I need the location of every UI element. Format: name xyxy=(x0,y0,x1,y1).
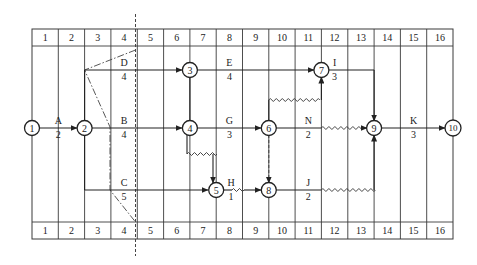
node-6: 6 xyxy=(261,121,276,136)
node-1: 1 xyxy=(25,121,40,136)
time-label: 10 xyxy=(277,32,287,43)
time-label: 9 xyxy=(253,32,258,43)
time-scale-top: 1 2 3 4 5 6 7 8 9 10 11 12 13 14 15 16 xyxy=(43,32,445,43)
time-label: 10 xyxy=(277,225,287,236)
node-label: 5 xyxy=(214,185,219,196)
time-label: 15 xyxy=(409,32,419,43)
time-label: 6 xyxy=(174,225,179,236)
time-label: 3 xyxy=(95,225,100,236)
time-label: 9 xyxy=(253,225,258,236)
time-label: 6 xyxy=(174,32,179,43)
time-label: 16 xyxy=(435,225,445,236)
activity-duration-e: 4 xyxy=(227,71,232,82)
free-float-wavy-j xyxy=(321,189,375,192)
node-5: 5 xyxy=(209,183,224,198)
activity-duration-b: 4 xyxy=(122,129,127,140)
time-label: 16 xyxy=(435,32,445,43)
activity-name-a: A xyxy=(55,115,63,126)
activity-duration-h: 1 xyxy=(229,191,234,202)
time-label: 7 xyxy=(201,32,206,43)
node-label: 2 xyxy=(82,123,87,134)
node-3: 3 xyxy=(182,63,197,78)
activity-labels: A 2 D 4 B 4 C 5 E 4 G 3 H 1 I 3 N 2 J 2 … xyxy=(55,57,418,202)
activity-duration-n: 2 xyxy=(306,129,311,140)
time-label: 12 xyxy=(330,225,340,236)
activity-name-d: D xyxy=(120,57,127,68)
time-label: 7 xyxy=(201,225,206,236)
activity-name-b: B xyxy=(121,115,128,126)
time-label: 13 xyxy=(356,32,366,43)
node-9: 9 xyxy=(367,121,382,136)
node-8: 8 xyxy=(261,183,276,198)
time-label: 3 xyxy=(95,32,100,43)
time-label: 14 xyxy=(382,225,392,236)
activity-name-c: C xyxy=(121,177,128,188)
activity-name-g: G xyxy=(226,115,233,126)
time-label: 2 xyxy=(69,225,74,236)
node-label: 3 xyxy=(187,65,192,76)
time-label: 14 xyxy=(382,32,392,43)
node-label: 6 xyxy=(266,123,271,134)
node-4: 4 xyxy=(182,121,197,136)
time-label: 4 xyxy=(122,225,127,236)
time-label: 8 xyxy=(227,32,232,43)
activity-name-k: K xyxy=(410,115,418,126)
activity-arrows xyxy=(39,70,445,192)
activity-name-j: J xyxy=(306,177,310,188)
time-label: 8 xyxy=(227,225,232,236)
time-grid xyxy=(32,29,453,239)
time-label: 12 xyxy=(330,32,340,43)
time-label: 11 xyxy=(303,225,313,236)
free-float-wavy-n xyxy=(321,127,363,130)
time-label: 1 xyxy=(43,225,48,236)
activity-duration-j: 2 xyxy=(306,191,311,202)
node-label: 10 xyxy=(449,123,459,133)
time-label: 4 xyxy=(122,32,127,43)
time-scale-bottom: 1 2 3 4 5 6 7 8 9 10 11 12 13 14 15 16 xyxy=(43,225,445,236)
activity-name-e: E xyxy=(226,57,232,68)
network-diagram: 1 2 3 4 5 6 7 8 9 10 11 12 13 14 15 16 1… xyxy=(0,0,477,265)
node-label: 1 xyxy=(30,123,35,134)
node-label: 9 xyxy=(372,123,377,134)
node-7: 7 xyxy=(314,63,329,78)
check-line-shape xyxy=(85,50,136,222)
activity-duration-c: 5 xyxy=(122,191,127,202)
time-label: 2 xyxy=(69,32,74,43)
activity-duration-d: 4 xyxy=(122,71,127,82)
time-label: 15 xyxy=(409,225,419,236)
node-2: 2 xyxy=(77,121,92,136)
activity-duration-a: 2 xyxy=(56,129,61,140)
activity-duration-i: 3 xyxy=(332,71,337,82)
time-label: 1 xyxy=(43,32,48,43)
activity-name-n: N xyxy=(305,115,312,126)
time-label: 13 xyxy=(356,225,366,236)
time-label: 5 xyxy=(148,32,153,43)
node-label: 4 xyxy=(187,123,192,134)
time-label: 11 xyxy=(303,32,313,43)
node-label: 7 xyxy=(319,65,324,76)
time-label: 5 xyxy=(148,225,153,236)
activity-name-h: H xyxy=(227,177,234,188)
activity-duration-g: 3 xyxy=(227,129,232,140)
activity-duration-k: 3 xyxy=(411,129,416,140)
free-float-wavy-6-7 xyxy=(269,99,320,102)
node-label: 8 xyxy=(266,185,271,196)
activity-name-i: I xyxy=(333,57,336,68)
node-10: 10 xyxy=(445,120,461,136)
